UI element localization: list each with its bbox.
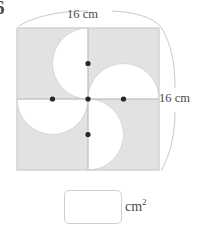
answer-unit-text: cm — [125, 199, 142, 214]
center-dot — [85, 96, 90, 101]
right-midpoint-dot — [121, 96, 126, 101]
answer-input-box[interactable] — [64, 190, 122, 224]
left-midpoint-dot — [50, 96, 55, 101]
right-dimension-brace-upper — [161, 27, 175, 88]
answer-unit-exponent: 2 — [142, 197, 147, 207]
right-dimension-brace-lower — [161, 112, 175, 171]
right-dimension-label: 16 cm — [159, 91, 190, 106]
top-dimension-label: 16 cm — [67, 7, 98, 22]
bottom-midpoint-dot — [85, 132, 90, 137]
worksheet-figure-panel: 6 16 cm 16 cm cm2 — [0, 0, 200, 225]
top-midpoint-dot — [85, 61, 90, 66]
answer-unit-label: cm2 — [125, 199, 147, 215]
top-dimension-brace-right — [112, 11, 161, 27]
